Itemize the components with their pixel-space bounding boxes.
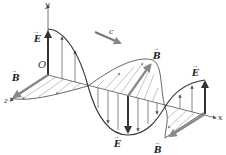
velocity-arrow bbox=[95, 32, 120, 43]
z-axis-label: z bbox=[3, 97, 8, 105]
em-wave-diagram: y O z x c E → B → B → E → E → B → bbox=[0, 0, 226, 155]
e-field-curve bbox=[48, 29, 205, 135]
svg-text:B: B bbox=[11, 73, 20, 83]
x-axis-label: x bbox=[218, 113, 223, 122]
x-axis bbox=[48, 75, 216, 118]
svg-text:B: B bbox=[153, 145, 162, 155]
svg-text:→: → bbox=[34, 29, 38, 35]
svg-text:E: E bbox=[33, 34, 41, 44]
label-e-mid: E → bbox=[113, 134, 121, 149]
svg-text:→: → bbox=[154, 46, 158, 52]
origin-label: O bbox=[38, 59, 46, 70]
label-b-mid: B → bbox=[152, 46, 161, 61]
svg-text:→: → bbox=[193, 63, 197, 69]
svg-text:→: → bbox=[155, 140, 159, 146]
svg-text:E: E bbox=[191, 68, 199, 78]
svg-text:E: E bbox=[113, 139, 121, 149]
label-e-origin: E → bbox=[33, 29, 41, 44]
b-vector-right bbox=[170, 114, 205, 136]
svg-text:→: → bbox=[12, 68, 16, 74]
svg-text:→: → bbox=[114, 134, 118, 140]
label-b-origin: B → bbox=[11, 68, 20, 83]
label-b-right: B → bbox=[153, 140, 162, 155]
velocity-label: c bbox=[109, 27, 114, 36]
label-e-right: E → bbox=[191, 63, 199, 78]
svg-text:B: B bbox=[152, 51, 161, 61]
y-axis-label: y bbox=[44, 0, 50, 9]
